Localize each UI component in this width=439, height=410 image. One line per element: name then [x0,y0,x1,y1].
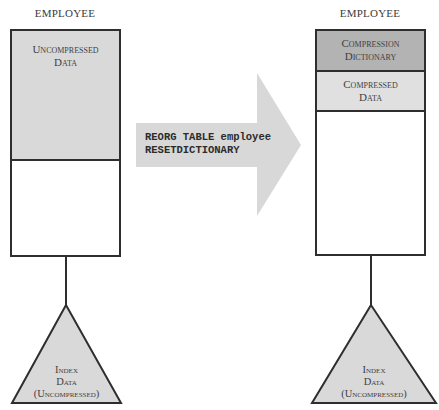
left-index-line3: (Uncompressed) [12,388,121,400]
left-table-title: EMPLOYEE [10,7,120,19]
uncompressed-label-line2: Data [12,56,119,69]
uncompressed-data-segment: Uncompressed Data [12,31,119,161]
right-index-line3: (Uncompressed) [314,388,434,400]
reorg-command-line1: REORG TABLE employee [145,131,271,144]
left-index-label: Index Data (Uncompressed) [12,364,121,400]
left-index-line1: Index [12,364,121,376]
reorg-command-line2: RESETDICTIONARY [145,144,240,157]
left-empty-segment [12,161,119,255]
compressed-data-segment: Compressed Data [317,72,424,112]
right-connector-line [370,256,372,306]
right-index-label: Index Data (Uncompressed) [314,364,434,400]
left-connector-line [65,257,67,306]
left-table-box: Uncompressed Data [10,29,121,257]
compressed-label-line2: Data [317,91,424,104]
right-empty-segment [317,112,424,254]
compression-dictionary-segment: Compression Dictionary [317,31,424,72]
right-index-line2: Data [314,376,434,388]
left-index-line2: Data [12,376,121,388]
dictionary-label-line1: Compression [317,37,424,50]
uncompressed-label-line1: Uncompressed [12,43,119,56]
dictionary-label-line2: Dictionary [317,50,424,63]
compressed-label-line1: Compressed [317,78,424,91]
right-index-line1: Index [314,364,434,376]
right-table-box: Compression Dictionary Compressed Data [315,29,426,256]
right-table-title: EMPLOYEE [315,7,425,19]
